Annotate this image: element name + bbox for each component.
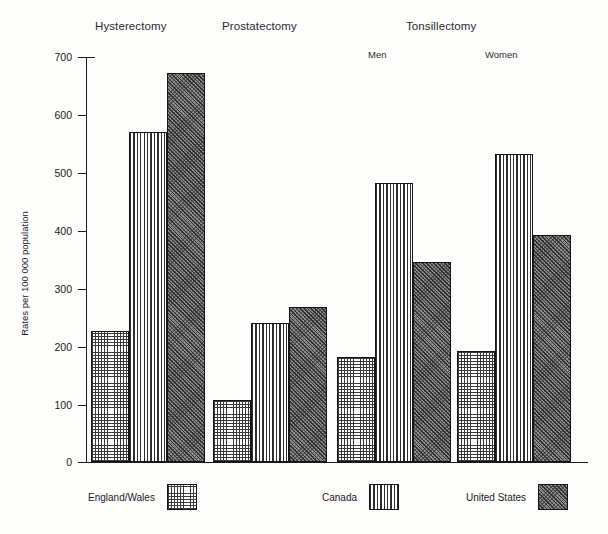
bar-tonsillectomy-men-england-wales [337, 357, 375, 462]
legend-swatch-england-wales [167, 484, 197, 510]
y-tick-label-500: 500 [32, 167, 72, 179]
y-tick-100 [78, 405, 87, 406]
bar-hysterectomy-united-states [167, 73, 205, 462]
sub-header-men: Men [368, 49, 386, 60]
y-tick-400 [78, 231, 87, 232]
bar-tonsillectomy-women-canada [495, 154, 533, 462]
legend-label-england-wales: England/Wales [88, 492, 155, 503]
y-tick-700 [78, 57, 87, 58]
y-axis-line [86, 57, 87, 463]
y-tick-500 [78, 173, 87, 174]
bar-tonsillectomy-women-england-wales [457, 351, 495, 462]
legend-item-united-states: United States [466, 484, 568, 510]
group-header-hysterectomy: Hysterectomy [95, 20, 167, 32]
bar-prostatectomy-canada [251, 323, 289, 462]
bar-prostatectomy-united-states [289, 307, 327, 462]
sub-header-women: Women [485, 49, 518, 60]
legend-swatch-canada [369, 484, 399, 510]
bar-chart: Hysterectomy Prostatectomy Tonsillectomy… [0, 0, 608, 534]
y-tick-200 [78, 347, 87, 348]
y-tick-label-400: 400 [32, 225, 72, 237]
bar-tonsillectomy-men-united-states [413, 262, 451, 462]
y-axis-title: Rates per 100 000 population [19, 184, 30, 364]
y-tick-label-600: 600 [32, 109, 72, 121]
bar-hysterectomy-england-wales [91, 331, 129, 462]
y-tick-label-700: 700 [32, 51, 72, 63]
x-axis-baseline [86, 462, 588, 463]
y-axis-top-cap [86, 57, 95, 58]
y-tick-label-0: 0 [32, 456, 72, 468]
y-tick-0 [78, 462, 87, 463]
bar-tonsillectomy-men-canada [375, 183, 413, 462]
bar-tonsillectomy-women-united-states [533, 235, 571, 462]
legend-label-canada: Canada [322, 492, 357, 503]
bar-prostatectomy-england-wales [213, 400, 251, 462]
group-header-prostatectomy: Prostatectomy [222, 20, 297, 32]
legend-label-united-states: United States [466, 492, 526, 503]
group-header-tonsillectomy: Tonsillectomy [406, 20, 476, 32]
y-tick-label-200: 200 [32, 341, 72, 353]
y-tick-600 [78, 115, 87, 116]
bar-hysterectomy-canada [129, 132, 167, 462]
legend-swatch-united-states [538, 484, 568, 510]
legend-item-england-wales: England/Wales [88, 484, 197, 510]
y-tick-label-300: 300 [32, 283, 72, 295]
y-tick-label-100: 100 [32, 399, 72, 411]
legend-item-canada: Canada [322, 484, 399, 510]
y-tick-300 [78, 289, 87, 290]
